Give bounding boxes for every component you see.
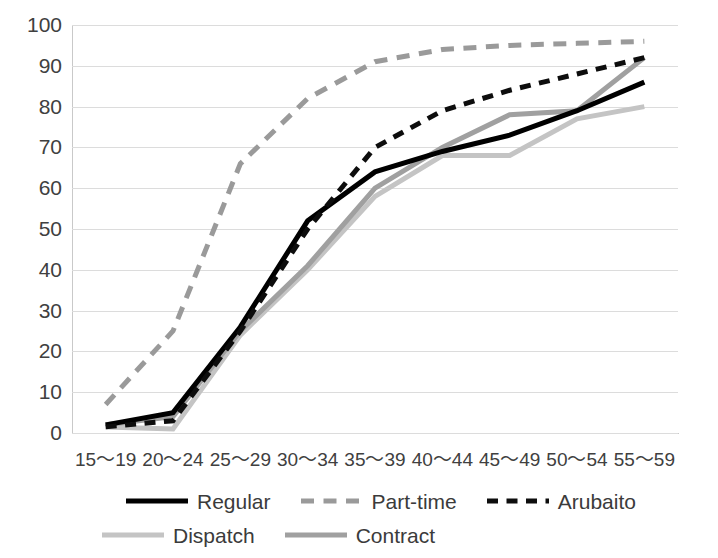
y-axis-tick-label: 80 xyxy=(4,96,62,117)
legend-item-dispatch[interactable]: Dispatch xyxy=(102,525,255,546)
y-axis-tick-label: 70 xyxy=(4,136,62,157)
x-axis-tick-label: 55～59 xyxy=(614,448,675,472)
legend-item-part-time[interactable]: Part-time xyxy=(301,491,457,512)
legend-label: Regular xyxy=(197,491,271,512)
series-lines xyxy=(72,25,678,433)
y-axis-tick-label: 10 xyxy=(4,381,62,402)
legend-item-arubaito[interactable]: Arubaito xyxy=(487,491,636,512)
legend-label: Part-time xyxy=(372,491,457,512)
plot-area xyxy=(72,25,678,433)
legend-swatch-icon xyxy=(301,494,363,508)
y-axis: 0102030405060708090100 xyxy=(0,25,62,433)
series-line-part-time xyxy=(106,41,645,404)
line-chart: 0102030405060708090100 15～1920～2425～2930… xyxy=(0,0,718,558)
x-axis-tick-label: 45～49 xyxy=(479,448,540,472)
y-axis-tick-label: 90 xyxy=(4,55,62,76)
legend-label: Dispatch xyxy=(173,525,255,546)
legend-row: RegularPart-timeArubaito xyxy=(72,484,692,518)
legend-swatch-icon xyxy=(126,494,188,508)
x-axis-tick-label: 40～44 xyxy=(412,448,473,472)
x-axis-tick-label: 25～29 xyxy=(210,448,271,472)
legend-swatch-icon xyxy=(102,528,164,542)
x-axis-tick-label: 30～34 xyxy=(277,448,338,472)
legend-row: DispatchContract xyxy=(72,518,692,552)
series-line-contract xyxy=(106,58,645,425)
x-axis-tick-label: 20～24 xyxy=(142,448,203,472)
x-axis-tick-label: 50～54 xyxy=(546,448,607,472)
x-axis: 15～1920～2425～2930～3435～3940～4445～4950～54… xyxy=(72,448,678,476)
legend-item-contract[interactable]: Contract xyxy=(285,525,435,546)
legend-swatch-icon xyxy=(285,528,347,542)
legend-item-regular[interactable]: Regular xyxy=(126,491,271,512)
y-axis-tick-label: 20 xyxy=(4,340,62,361)
y-axis-tick-label: 0 xyxy=(4,422,62,443)
legend-label: Contract xyxy=(356,525,435,546)
x-axis-tick-label: 15～19 xyxy=(75,448,136,472)
chart-legend: RegularPart-timeArubaitoDispatchContract xyxy=(72,484,692,554)
x-axis-tick-label: 35～39 xyxy=(344,448,405,472)
series-line-regular xyxy=(106,82,645,425)
legend-swatch-icon xyxy=(487,494,549,508)
series-line-dispatch xyxy=(106,107,645,429)
legend-label: Arubaito xyxy=(558,491,636,512)
y-axis-tick-label: 50 xyxy=(4,218,62,239)
y-axis-tick-label: 100 xyxy=(4,14,62,35)
y-axis-tick-label: 30 xyxy=(4,300,62,321)
y-axis-tick-label: 60 xyxy=(4,177,62,198)
gridline xyxy=(72,433,678,434)
y-axis-tick-label: 40 xyxy=(4,259,62,280)
